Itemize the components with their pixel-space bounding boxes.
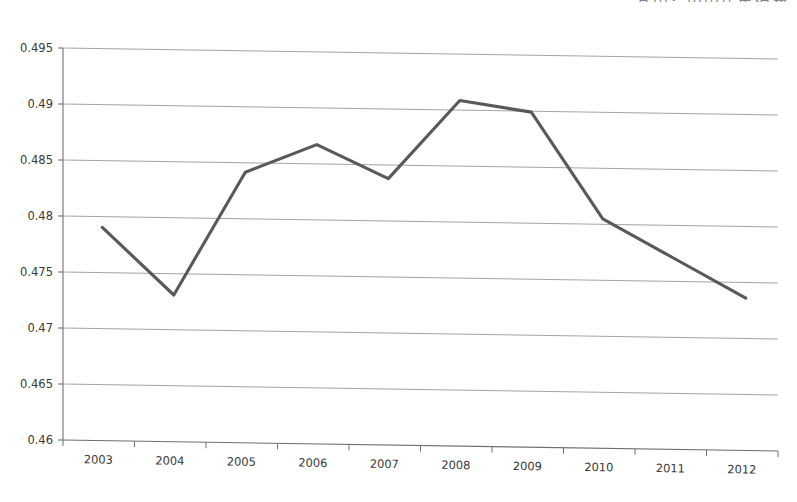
y-tick-label: 0.495	[20, 41, 53, 55]
gridline	[63, 328, 778, 339]
gridline	[63, 384, 778, 395]
x-tick-label: 2005	[227, 455, 256, 469]
x-tick-label: 2008	[441, 458, 470, 472]
y-tick-label: 0.475	[20, 265, 53, 279]
series-1-line	[102, 101, 746, 299]
gridline	[63, 104, 778, 115]
x-tick-label: 2003	[84, 452, 113, 466]
x-tick-labels: 2003200420052006200720082009201020112012	[84, 452, 757, 476]
x-tick-label: 2006	[298, 456, 327, 470]
gridline	[63, 272, 778, 283]
y-tick-label: 0.49	[27, 97, 53, 111]
gridline	[63, 48, 778, 59]
x-tick-label: 2010	[584, 460, 613, 474]
x-tick-label: 2009	[513, 459, 542, 473]
y-axis	[58, 48, 63, 440]
x-tick-label: 2004	[155, 453, 184, 467]
line-chart: 0.460.4650.470.4750.480.4850.490.495 200…	[0, 0, 797, 502]
y-tick-label: 0.47	[27, 321, 53, 335]
gridline	[63, 216, 778, 227]
y-tick-labels: 0.460.4650.470.4750.480.4850.490.495	[20, 41, 53, 447]
y-tick-label: 0.46	[27, 433, 53, 447]
gridlines-group	[63, 48, 778, 395]
x-tick-label: 2012	[727, 462, 756, 476]
chart-container: 其中：中国居民消费 0.460.4650.470.4750.480.4850.4…	[0, 0, 797, 502]
x-tick-label: 2007	[370, 457, 399, 471]
data-series-line	[102, 101, 746, 299]
y-tick-label: 0.48	[27, 209, 53, 223]
x-tick-label: 2011	[656, 461, 685, 475]
y-tick-label: 0.485	[20, 153, 53, 167]
gridline	[63, 160, 778, 171]
y-tick-label: 0.465	[20, 377, 53, 391]
